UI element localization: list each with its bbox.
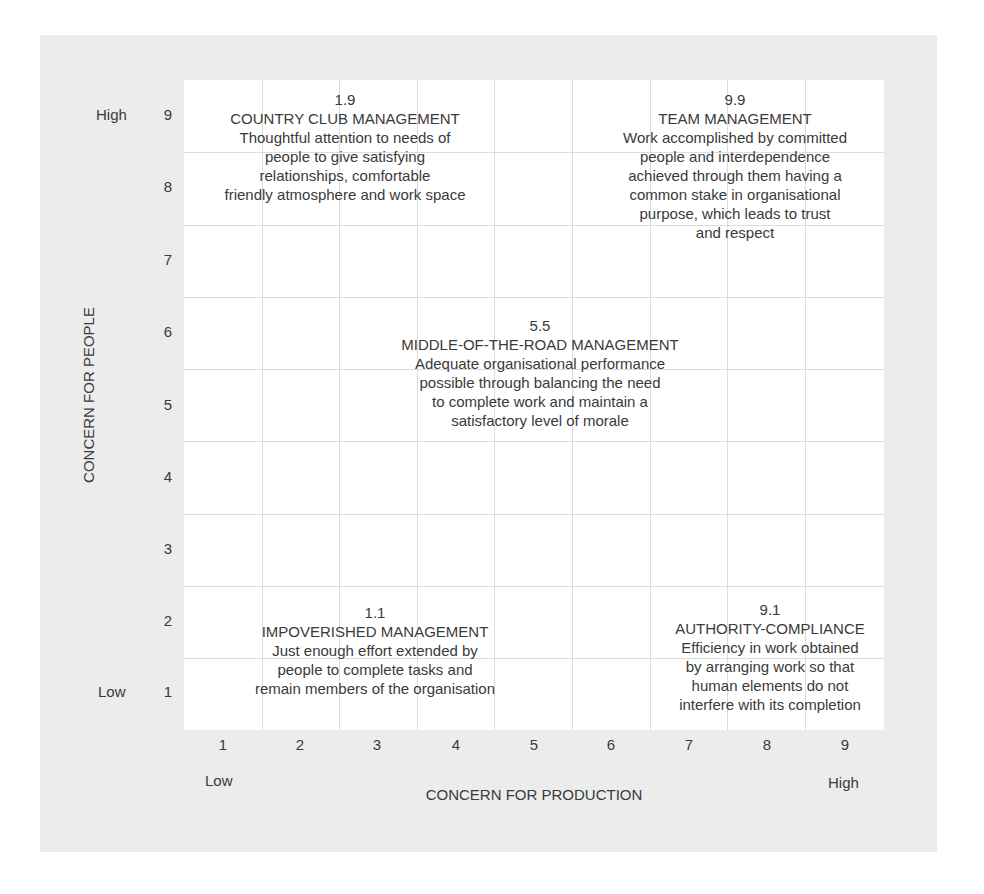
style-description-line: remain members of the organisation <box>225 679 525 698</box>
style-description-line: human elements do not <box>650 676 890 695</box>
x-tick-4: 4 <box>446 736 466 753</box>
style-description-line: Work accomplished by committed <box>590 128 880 147</box>
style-description-line: common stake in organisational <box>590 185 880 204</box>
grid-line-horizontal <box>184 586 884 587</box>
style-description-line: purpose, which leads to trust <box>590 204 880 223</box>
y-tick-4: 4 <box>158 468 178 485</box>
y-tick-9: 9 <box>158 106 178 123</box>
style-description-line: interfere with its completion <box>650 695 890 714</box>
style-description-line: people to give satisfying <box>195 147 495 166</box>
x-tick-3: 3 <box>367 736 387 753</box>
style-description-line: satisfactory level of morale <box>380 411 700 430</box>
style-title: MIDDLE-OF-THE-ROAD MANAGEMENT <box>380 335 700 354</box>
style-code: 9.1 <box>650 600 890 619</box>
y-tick-6: 6 <box>158 323 178 340</box>
style-description-line: achieved through them having a <box>590 166 880 185</box>
style-code: 1.9 <box>195 90 495 109</box>
x-tick-2: 2 <box>290 736 310 753</box>
y-tick-8: 8 <box>158 178 178 195</box>
x-tick-9: 9 <box>835 736 855 753</box>
style-authority-compliance: 9.1 AUTHORITY-COMPLIANCE Efficiency in w… <box>650 600 890 714</box>
style-description-line: and respect <box>590 223 880 242</box>
style-title: COUNTRY CLUB MANAGEMENT <box>195 109 495 128</box>
style-description-line: Just enough effort extended by <box>225 641 525 660</box>
y-axis-low-label: Low <box>98 683 126 700</box>
style-description-line: to complete work and maintain a <box>380 392 700 411</box>
x-axis-title: CONCERN FOR PRODUCTION <box>384 786 684 803</box>
y-axis-high-label: High <box>96 106 127 123</box>
style-description-line: people to complete tasks and <box>225 660 525 679</box>
grid-line-horizontal <box>184 441 884 442</box>
style-description-line: people and interdependence <box>590 147 880 166</box>
y-tick-7: 7 <box>158 251 178 268</box>
style-team: 9.9 TEAM MANAGEMENT Work accomplished by… <box>590 90 880 242</box>
y-axis-title-text: CONCERN FOR PEOPLE <box>80 307 97 483</box>
style-description-line: possible through balancing the need <box>380 373 700 392</box>
style-description-line: Adequate organisational performance <box>380 354 700 373</box>
x-tick-8: 8 <box>757 736 777 753</box>
x-tick-7: 7 <box>679 736 699 753</box>
y-tick-3: 3 <box>158 540 178 557</box>
y-tick-2: 2 <box>158 612 178 629</box>
style-title: AUTHORITY-COMPLIANCE <box>650 619 890 638</box>
y-tick-1: 1 <box>158 683 178 700</box>
style-description-line: by arranging work so that <box>650 657 890 676</box>
x-axis-high-label: High <box>828 774 859 791</box>
style-description-line: friendly atmosphere and work space <box>195 185 495 204</box>
style-description-line: Efficiency in work obtained <box>650 638 890 657</box>
style-description-line: relationships, comfortable <box>195 166 495 185</box>
style-title: TEAM MANAGEMENT <box>590 109 880 128</box>
x-tick-5: 5 <box>524 736 544 753</box>
grid-line-horizontal <box>184 514 884 515</box>
x-axis-low-label: Low <box>205 772 233 789</box>
x-tick-6: 6 <box>601 736 621 753</box>
y-tick-5: 5 <box>158 396 178 413</box>
grid-line-horizontal <box>184 297 884 298</box>
style-title: IMPOVERISHED MANAGEMENT <box>225 622 525 641</box>
style-code: 1.1 <box>225 603 525 622</box>
style-code: 5.5 <box>380 316 700 335</box>
x-tick-1: 1 <box>213 736 233 753</box>
style-middle-of-the-road: 5.5 MIDDLE-OF-THE-ROAD MANAGEMENT Adequa… <box>380 316 700 430</box>
style-country-club: 1.9 COUNTRY CLUB MANAGEMENT Thoughtful a… <box>195 90 495 204</box>
style-description-line: Thoughtful attention to needs of <box>195 128 495 147</box>
style-impoverished: 1.1 IMPOVERISHED MANAGEMENT Just enough … <box>225 603 525 698</box>
style-code: 9.9 <box>590 90 880 109</box>
